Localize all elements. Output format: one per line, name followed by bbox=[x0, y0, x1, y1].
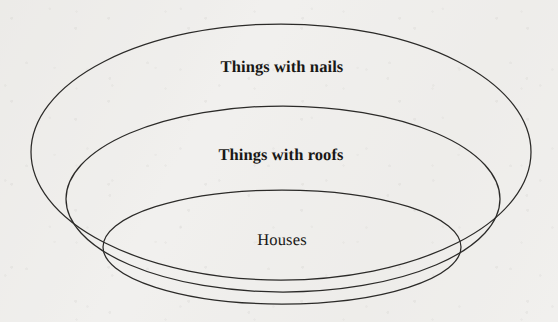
set-label-things-with-roofs: Things with roofs bbox=[218, 145, 343, 165]
nested-set-diagram: Things with nails Things with roofs Hous… bbox=[0, 0, 558, 322]
set-label-things-with-nails: Things with nails bbox=[221, 57, 344, 77]
set-label-houses: Houses bbox=[257, 230, 306, 250]
set-ellipse-things-with-roofs bbox=[66, 106, 500, 292]
